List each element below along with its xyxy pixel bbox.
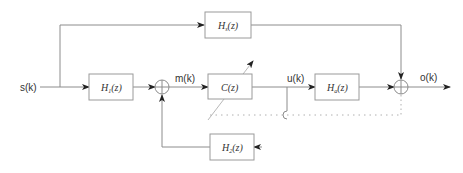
- sum-1: [155, 80, 169, 94]
- signal-s: s(k): [20, 82, 37, 93]
- label-c: C(z): [221, 82, 239, 94]
- label-h1: H1(z): [100, 82, 122, 94]
- block-diagram: s(k) m(k) u(k) o(k) Hs(z) H1(z) C(z) Ha(…: [0, 0, 463, 173]
- label-ha: Ha(z): [326, 82, 348, 94]
- label-hs: Hs(z): [217, 20, 239, 32]
- top-output-path: [251, 25, 401, 79]
- signal-o: o(k): [420, 72, 437, 83]
- signal-u: u(k): [287, 73, 304, 84]
- signal-m: m(k): [175, 73, 195, 84]
- sum-2: [394, 80, 408, 94]
- label-h2: H2(z): [221, 142, 243, 154]
- feedback-path-left: [162, 95, 210, 147]
